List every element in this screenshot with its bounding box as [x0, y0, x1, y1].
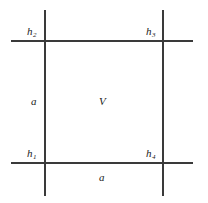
label-volume-v-base: V: [99, 95, 106, 107]
label-h4-subscript: 4: [152, 153, 156, 161]
label-h1-base: h: [27, 147, 33, 159]
bottom-horizontal-line: [11, 162, 193, 164]
label-volume-v: V: [99, 96, 106, 107]
label-side-a-bottom: a: [99, 172, 105, 183]
left-vertical-line: [44, 10, 46, 196]
label-side-a-bottom-base: a: [99, 171, 105, 183]
label-side-a-left-base: a: [31, 95, 37, 107]
label-h3-subscript: 3: [152, 31, 156, 39]
geometry-figure: h2 h3 h1 h4 a a V: [0, 0, 208, 203]
label-h4: h4: [146, 148, 155, 159]
label-h4-base: h: [146, 147, 152, 159]
label-h2-subscript: 2: [33, 31, 37, 39]
top-horizontal-line: [11, 40, 193, 42]
right-vertical-line: [162, 10, 164, 196]
label-side-a-left: a: [31, 96, 37, 107]
label-h2-base: h: [27, 25, 33, 37]
label-h3: h3: [146, 26, 155, 37]
label-h1: h1: [27, 148, 36, 159]
label-h1-subscript: 1: [33, 153, 37, 161]
label-h2: h2: [27, 26, 36, 37]
label-h3-base: h: [146, 25, 152, 37]
